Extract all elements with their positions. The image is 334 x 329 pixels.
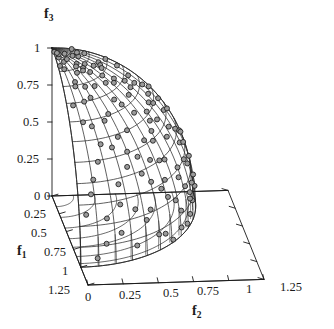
data-point <box>139 171 144 176</box>
data-point <box>64 57 69 62</box>
data-point <box>157 158 162 163</box>
data-point <box>74 50 79 55</box>
data-point <box>95 256 100 261</box>
data-point <box>156 96 161 101</box>
data-point <box>178 129 183 134</box>
data-point <box>75 70 80 75</box>
data-point <box>162 157 167 162</box>
z-tick-label-05: 0.5 <box>23 115 39 130</box>
data-point <box>166 124 171 129</box>
data-point <box>147 118 152 123</box>
data-point <box>118 202 123 207</box>
data-point <box>99 65 104 70</box>
data-point <box>81 120 86 125</box>
data-point <box>140 82 145 87</box>
data-point <box>164 134 169 139</box>
axis-f2-tick <box>228 276 229 281</box>
data-point <box>188 211 193 216</box>
data-point <box>142 138 147 143</box>
data-point <box>185 161 190 166</box>
axis-f2-tick <box>157 278 158 283</box>
data-point <box>163 231 168 236</box>
z-tick-label-075: 0.75 <box>17 78 39 93</box>
data-point <box>104 241 109 246</box>
data-point <box>132 80 137 85</box>
axis-label-f1-sub: 1 <box>22 250 27 260</box>
data-point <box>144 217 149 222</box>
data-point <box>109 145 114 150</box>
data-point <box>88 95 93 100</box>
data-point <box>125 128 130 133</box>
data-point <box>104 216 109 221</box>
figure-3d-pareto-front: f3 f2 f1 1 0.75 0.5 0.25 0 0 0.25 0.5 0.… <box>0 0 334 329</box>
data-point <box>95 159 100 164</box>
data-point <box>98 142 103 147</box>
data-point <box>188 196 193 201</box>
data-point <box>88 70 93 75</box>
data-point <box>116 182 121 187</box>
axis-f2-tick <box>122 279 123 284</box>
data-point <box>89 124 94 129</box>
data-point <box>69 46 74 51</box>
data-point <box>82 99 87 104</box>
base-projection-arc <box>79 192 188 264</box>
data-point <box>103 56 108 61</box>
data-point <box>175 165 180 170</box>
x-tick-label-075: 0.75 <box>197 284 219 299</box>
axis-f2-tick <box>192 277 193 282</box>
data-point <box>149 179 154 184</box>
y-tick-label-075: 0.75 <box>44 245 66 260</box>
axis-f1-tick-left <box>59 212 65 214</box>
data-point <box>187 190 192 195</box>
data-point <box>164 106 169 111</box>
data-point <box>173 198 178 203</box>
data-point <box>62 51 67 56</box>
x-tick-label-1: 1 <box>246 282 252 297</box>
data-point <box>91 63 96 68</box>
data-point <box>119 230 124 235</box>
x-tick-label-125: 1.25 <box>280 280 302 295</box>
surface-meridian <box>52 48 181 236</box>
base-projection-arc <box>65 194 117 228</box>
data-point <box>185 221 190 226</box>
data-point <box>115 134 120 139</box>
data-point <box>179 208 184 213</box>
data-point <box>58 63 63 68</box>
axis-label-f1: f1 <box>17 243 26 260</box>
data-point <box>162 177 167 182</box>
data-point <box>157 232 162 237</box>
axis-label-f2-sub: 2 <box>197 310 202 320</box>
y-tick-label-125: 1.25 <box>48 283 70 298</box>
data-point <box>82 51 87 56</box>
data-point <box>135 154 140 159</box>
z-tick-label-025: 0.25 <box>17 152 39 167</box>
data-point <box>125 164 130 169</box>
data-point <box>71 103 76 108</box>
data-point <box>125 149 130 154</box>
data-point <box>150 138 155 143</box>
data-point <box>186 153 191 158</box>
data-point <box>148 157 153 162</box>
data-point <box>70 53 75 58</box>
z-tick-label-0: 0 <box>34 189 40 204</box>
axis-label-f2: f2 <box>192 303 201 320</box>
data-point <box>128 85 133 90</box>
data-point <box>106 111 111 116</box>
data-point <box>181 139 186 144</box>
data-point <box>179 225 184 230</box>
axis-label-f3-sub: 3 <box>49 13 54 23</box>
data-point <box>122 78 127 83</box>
x-tick-label-025: 0.25 <box>119 288 141 303</box>
data-point <box>54 50 59 55</box>
axis-f1-tick-left <box>66 230 72 232</box>
data-point <box>149 128 154 133</box>
data-point <box>88 192 93 197</box>
data-point <box>73 84 78 89</box>
data-point <box>181 157 186 162</box>
data-point <box>148 207 153 212</box>
data-point <box>119 102 124 107</box>
y-tick-label-05: 0.5 <box>31 226 47 241</box>
data-point <box>132 110 137 115</box>
axis-label-f3: f3 <box>44 6 53 23</box>
data-point <box>81 68 86 73</box>
